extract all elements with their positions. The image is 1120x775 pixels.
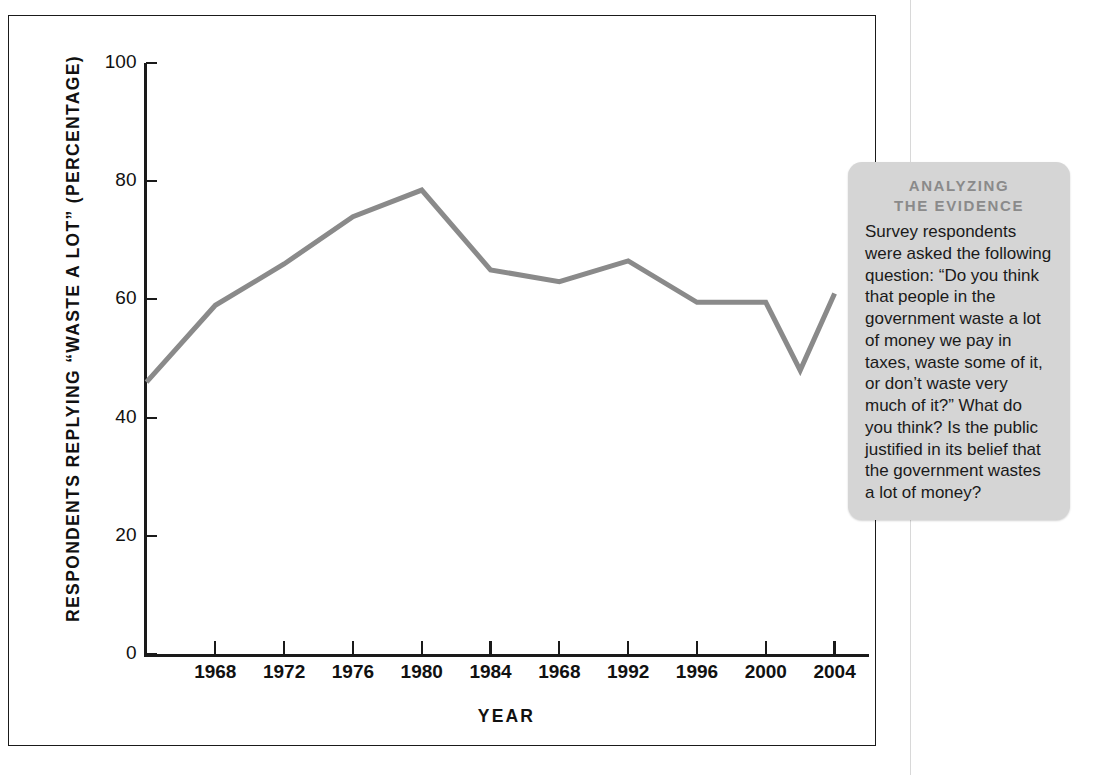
evidence-body-text: Survey respondents were asked the follow… [865, 221, 1053, 504]
plot-area: 020406080100 196819721976198019841968199… [9, 16, 877, 747]
analyzing-the-evidence-callout: ANALYZING THE EVIDENCE Survey respondent… [848, 162, 1070, 520]
evidence-heading: ANALYZING THE EVIDENCE [865, 176, 1053, 215]
x-axis-title: YEAR [144, 706, 869, 727]
evidence-heading-line1: ANALYZING [909, 177, 1010, 194]
figure-frame: RESPONDENTS REPLYING “WASTE A LOT” (PERC… [8, 15, 876, 746]
waste-a-lot-series [9, 16, 877, 747]
evidence-heading-line2: THE EVIDENCE [865, 196, 1053, 216]
